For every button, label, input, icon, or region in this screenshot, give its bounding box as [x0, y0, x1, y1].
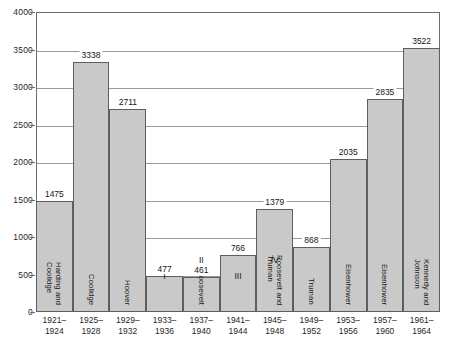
x-tick-label-line: 1924: [36, 326, 73, 337]
x-tick-label-line: 1929–: [109, 315, 146, 326]
bar-value-label: 477: [155, 264, 173, 274]
bar[interactable]: Harding andCoolidge: [36, 201, 73, 312]
bar-slot[interactable]: Kennedy andJohnson3522: [403, 12, 440, 312]
x-tick-label-line: 1936: [146, 326, 183, 337]
x-tick-label: 1937–1940: [183, 315, 220, 336]
y-tick-label: 3000: [3, 82, 33, 92]
x-tick-label: 1933–1936: [146, 315, 183, 336]
bar-slot[interactable]: Harding andCoolidge1475: [36, 12, 73, 312]
y-tick-mark: [30, 12, 35, 13]
x-tick-label: 1953–1956: [330, 315, 367, 336]
x-tick-label-line: 1925–: [73, 315, 110, 326]
y-tick-label: 2000: [3, 157, 33, 167]
x-tick-label-line: 1941–: [220, 315, 257, 326]
x-tick-label-line: 1960: [367, 326, 404, 337]
x-tick-label-line: 1928: [73, 326, 110, 337]
bar[interactable]: Roosevelt andTrumanIV: [256, 209, 293, 312]
bar-slot[interactable]: I477: [146, 12, 183, 312]
bar-series-label-line: Truman: [307, 278, 316, 305]
bar-series-label: Coolidge: [87, 274, 96, 305]
bar-slot[interactable]: Coolidge3338: [73, 12, 110, 312]
bar-term-numeral: II: [199, 255, 204, 265]
y-tick-mark: [30, 237, 35, 238]
bar-slot[interactable]: Eisenhower2835: [367, 12, 404, 312]
bar[interactable]: Coolidge: [73, 62, 110, 312]
x-tick-label-line: 1945–: [256, 315, 293, 326]
x-tick-label: 1929–1932: [109, 315, 146, 336]
y-axis: 05001000150020002500300035004000: [0, 12, 33, 312]
x-tick-label-line: 1933–: [146, 315, 183, 326]
bar-value-label: 2835: [373, 87, 396, 97]
y-tick-mark: [30, 162, 35, 163]
bar-term-numeral: III: [234, 271, 241, 281]
y-tick-label: 1500: [3, 195, 33, 205]
bar-series-label: Eisenhower: [344, 264, 353, 305]
bar-value-label: 2035: [337, 147, 360, 157]
bar-series-label-line: Coolidge: [87, 274, 96, 305]
bars-layer: Harding andCoolidge1475Coolidge3338Hoove…: [36, 12, 440, 312]
bar-term-numeral: IV: [271, 255, 279, 265]
bar[interactable]: III: [220, 255, 257, 312]
bar-slot[interactable]: Hoover2711: [109, 12, 146, 312]
x-tick-label: 1945–1948: [256, 315, 293, 336]
x-tick-label-line: 1921–: [36, 315, 73, 326]
x-tick-label-line: 1940: [183, 326, 220, 337]
x-tick-label-line: 1956: [330, 326, 367, 337]
x-tick-label: 1961–1964: [403, 315, 440, 336]
y-tick-label: 2500: [3, 120, 33, 130]
x-tick-label-line: 1953–: [330, 315, 367, 326]
y-tick-mark: [30, 125, 35, 126]
bar-value-label: 1475: [43, 189, 66, 199]
x-tick-label-line: 1948: [256, 326, 293, 337]
bar-value-label: 2711: [117, 97, 139, 107]
x-tick-label-line: 1937–: [183, 315, 220, 326]
y-tick-label: 1000: [3, 232, 33, 242]
bar[interactable]: Truman: [293, 247, 330, 312]
x-tick-label: 1925–1928: [73, 315, 110, 336]
bar-value-label: 3522: [410, 36, 433, 46]
bar-slot[interactable]: Roosevelt andTrumanIV1379: [256, 12, 293, 312]
cut-off-caption: [36, 345, 440, 351]
bar-series-label-line: Harding and: [54, 262, 63, 305]
bar-series-label: Kennedy andJohnson: [413, 259, 431, 305]
x-tick-label-line: 1952: [293, 326, 330, 337]
bar[interactable]: Hoover: [109, 109, 146, 312]
bar-series-label-line: Hoover: [123, 280, 132, 305]
x-tick-label: 1957–1960: [367, 315, 404, 336]
y-tick-label: 3500: [3, 45, 33, 55]
bar[interactable]: I: [146, 276, 183, 312]
x-tick-label-line: 1932: [109, 326, 146, 337]
bar-series-label-line: Eisenhower: [344, 264, 353, 305]
bar-slot[interactable]: RooseveltII461: [183, 12, 220, 312]
bar[interactable]: RooseveltII: [183, 277, 220, 312]
bar[interactable]: Eisenhower: [367, 99, 404, 312]
bar-chart: 05001000150020002500300035004000 Harding…: [0, 0, 456, 351]
y-tick-mark: [30, 312, 35, 313]
y-tick-label: 500: [3, 270, 33, 280]
bar-series-label-line: Eisenhower: [380, 264, 389, 305]
x-tick-label-line: 1961–: [403, 315, 440, 326]
bar-slot[interactable]: Eisenhower2035: [330, 12, 367, 312]
x-tick-label: 1941–1944: [220, 315, 257, 336]
x-tick-label-line: 1957–: [367, 315, 404, 326]
bar-series-label-line: Kennedy and: [422, 259, 431, 305]
x-tick-label-line: 1964: [403, 326, 440, 337]
bar-slot[interactable]: Truman868: [293, 12, 330, 312]
bar-series-label-line: Coolidge: [45, 262, 54, 305]
bar[interactable]: Eisenhower: [330, 159, 367, 312]
y-tick-mark: [30, 275, 35, 276]
bar[interactable]: Kennedy andJohnson: [403, 48, 440, 312]
y-tick-mark: [30, 200, 35, 201]
bar-series-label-line: Johnson: [413, 259, 422, 305]
bar-value-label: 766: [229, 243, 247, 253]
bar-slot[interactable]: III766: [220, 12, 257, 312]
y-tick-label: 4000: [3, 7, 33, 17]
bar-series-label: Harding andCoolidge: [45, 262, 63, 305]
x-axis: 1921–19241925–19281929–19321933–19361937…: [36, 315, 440, 345]
x-tick-label: 1921–1924: [36, 315, 73, 336]
x-tick-label-line: 1944: [220, 326, 257, 337]
bar-series-label: Hoover: [123, 280, 132, 305]
y-tick-label: 0: [3, 307, 33, 317]
y-tick-mark: [30, 50, 35, 51]
bar-value-label: 868: [302, 235, 320, 245]
